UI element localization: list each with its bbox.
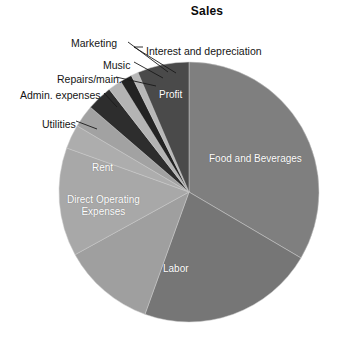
slice-callout-label: Admin. expenses [20,89,101,101]
slice-callout-label: Utilities [42,118,76,130]
slice-label-line: Expenses [67,206,140,218]
slice-callout-label: Marketing [71,37,117,49]
slice-label: Rent [92,162,113,174]
slice-callout-label: Music [103,59,130,71]
slice-label: Labor [163,263,189,275]
slice-callout-label: Interest and depreciation [146,45,262,57]
slice-label: Profit [159,89,182,101]
slice-label: Food and Beverages [209,153,302,165]
slice-label-line: Direct Operating [67,194,140,206]
slice-label: Direct OperatingExpenses [67,194,140,218]
slice-callout-label: Repairs/main. [57,73,122,85]
pie-chart-figure: Sales Food and BeveragesLaborRentProfitD… [0,0,342,340]
